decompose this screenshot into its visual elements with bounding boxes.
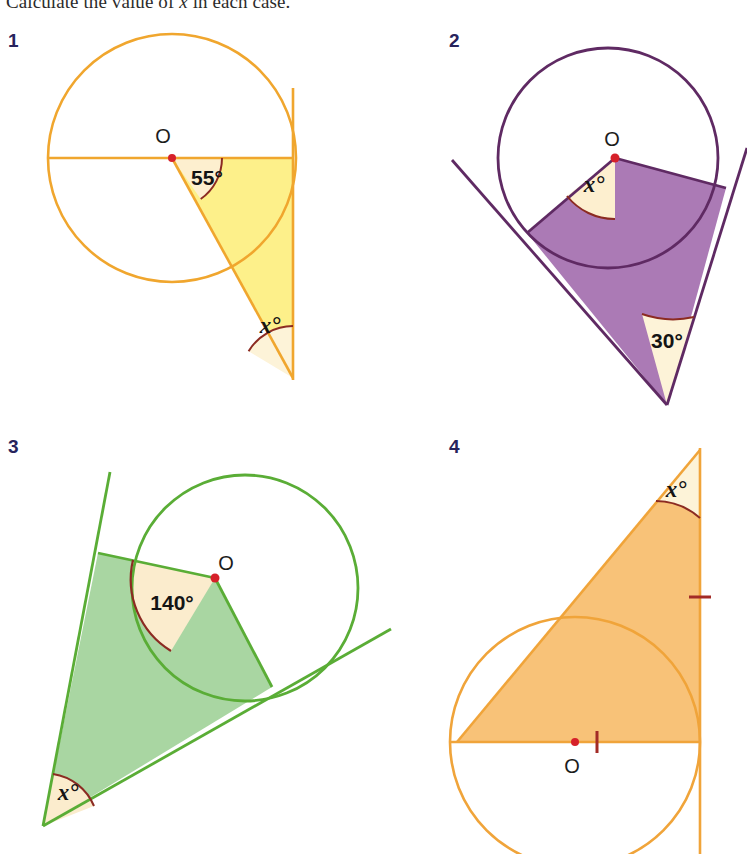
- figure-question-4: O x°: [0, 0, 747, 854]
- centre-label-4: O: [564, 755, 580, 777]
- worksheet-page: Calculate the value of x in each case. 1…: [0, 0, 747, 854]
- angle-label-x-4: x°: [665, 477, 688, 502]
- centre-dot-4: [571, 738, 579, 746]
